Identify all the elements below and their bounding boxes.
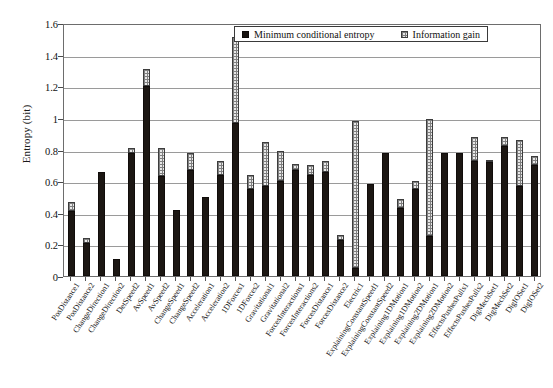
- bar-segment-min-conditional-entropy[interactable]: [397, 208, 404, 276]
- bar-group[interactable]: [337, 23, 344, 276]
- bar-group[interactable]: [292, 23, 299, 276]
- bar-group[interactable]: [426, 23, 433, 276]
- y-tick-label: 0.8: [2, 145, 58, 156]
- bar-group[interactable]: [382, 23, 389, 276]
- bar-segment-information-gain[interactable]: [352, 121, 359, 268]
- bar-segment-min-conditional-entropy[interactable]: [382, 153, 389, 276]
- gridline: [64, 183, 540, 184]
- bar-group[interactable]: [173, 23, 180, 276]
- legend-label-min-conditional-entropy: Minimum conditional entropy: [254, 29, 375, 40]
- bar-segment-information-gain[interactable]: [262, 142, 269, 186]
- bar-group[interactable]: [352, 23, 359, 276]
- bar-segment-min-conditional-entropy[interactable]: [232, 123, 239, 276]
- bar-group[interactable]: [322, 23, 329, 276]
- bar-group[interactable]: [501, 23, 508, 276]
- bar-segment-information-gain[interactable]: [277, 151, 284, 181]
- bar-segment-min-conditional-entropy[interactable]: [187, 170, 194, 276]
- bar-segment-min-conditional-entropy[interactable]: [68, 211, 75, 276]
- y-tick-label: 1.6: [2, 19, 58, 30]
- y-tick-label: 0.4: [2, 208, 58, 219]
- bar-group[interactable]: [277, 23, 284, 276]
- bar-group[interactable]: [531, 23, 538, 276]
- bar-segment-information-gain[interactable]: [501, 137, 508, 146]
- bar-group[interactable]: [217, 23, 224, 276]
- bar-group[interactable]: [262, 23, 269, 276]
- bar-segment-min-conditional-entropy[interactable]: [367, 184, 374, 276]
- bar-segment-information-gain[interactable]: [68, 202, 75, 211]
- bar-segment-information-gain[interactable]: [471, 137, 478, 161]
- bar-segment-information-gain[interactable]: [143, 69, 150, 86]
- bar-segment-min-conditional-entropy[interactable]: [471, 161, 478, 276]
- bar-segment-min-conditional-entropy[interactable]: [412, 189, 419, 276]
- bar-segment-information-gain[interactable]: [516, 140, 523, 186]
- bar-segment-min-conditional-entropy[interactable]: [292, 170, 299, 276]
- bar-group[interactable]: [187, 23, 194, 276]
- bar-group[interactable]: [128, 23, 135, 276]
- bar-group[interactable]: [68, 23, 75, 276]
- bar-segment-information-gain[interactable]: [337, 235, 344, 240]
- bar-segment-information-gain[interactable]: [158, 148, 165, 176]
- bar-segment-min-conditional-entropy[interactable]: [322, 172, 329, 276]
- bar-segment-min-conditional-entropy[interactable]: [173, 210, 180, 276]
- bar-segment-min-conditional-entropy[interactable]: [337, 240, 344, 276]
- bar-segment-information-gain[interactable]: [292, 164, 299, 170]
- bar-group[interactable]: [441, 23, 448, 276]
- entropy-bar-chart: Entropy (bit) 00.20.40.60.811.21.41.6 Po…: [0, 0, 553, 388]
- bar-group[interactable]: [367, 23, 374, 276]
- bar-segment-min-conditional-entropy[interactable]: [262, 186, 269, 276]
- bar-group[interactable]: [113, 23, 120, 276]
- gridline: [64, 57, 540, 58]
- bar-segment-information-gain[interactable]: [307, 165, 314, 174]
- bar-segment-min-conditional-entropy[interactable]: [98, 172, 105, 276]
- bar-group[interactable]: [516, 23, 523, 276]
- legend-entry-information-gain: Information gain: [401, 29, 480, 40]
- bar-group[interactable]: [202, 23, 209, 276]
- bar-segment-min-conditional-entropy[interactable]: [158, 176, 165, 276]
- bar-segment-min-conditional-entropy[interactable]: [426, 236, 433, 276]
- bar-segment-min-conditional-entropy[interactable]: [352, 268, 359, 276]
- bar-group[interactable]: [98, 23, 105, 276]
- bar-group[interactable]: [486, 23, 493, 276]
- bar-segment-information-gain[interactable]: [128, 148, 135, 153]
- bar-segment-information-gain[interactable]: [232, 37, 239, 122]
- bar-group[interactable]: [143, 23, 150, 276]
- bar-group[interactable]: [456, 23, 463, 276]
- bar-segment-min-conditional-entropy[interactable]: [456, 153, 463, 276]
- bar-segment-min-conditional-entropy[interactable]: [486, 162, 493, 276]
- bar-segment-min-conditional-entropy[interactable]: [516, 186, 523, 276]
- bar-segment-information-gain[interactable]: [322, 161, 329, 172]
- bar-segment-min-conditional-entropy[interactable]: [83, 243, 90, 276]
- y-tick-label: 0: [2, 272, 58, 283]
- bar-group[interactable]: [247, 23, 254, 276]
- bar-segment-min-conditional-entropy[interactable]: [143, 86, 150, 276]
- y-tick-label: 1.4: [2, 50, 58, 61]
- bar-group[interactable]: [412, 23, 419, 276]
- bar-segment-min-conditional-entropy[interactable]: [501, 146, 508, 276]
- bar-segment-information-gain[interactable]: [83, 238, 90, 243]
- x-axis-tick-labels: PosDistance1PosDistance2ChangeDirection1…: [63, 281, 541, 388]
- bar-segment-min-conditional-entropy[interactable]: [441, 153, 448, 276]
- bar-segment-information-gain[interactable]: [412, 181, 419, 189]
- bar-group[interactable]: [471, 23, 478, 276]
- bar-group[interactable]: [158, 23, 165, 276]
- bar-segment-information-gain[interactable]: [531, 156, 538, 165]
- bar-segment-min-conditional-entropy[interactable]: [531, 165, 538, 276]
- bar-group[interactable]: [83, 23, 90, 276]
- bar-segment-min-conditional-entropy[interactable]: [247, 189, 254, 276]
- bar-segment-min-conditional-entropy[interactable]: [202, 197, 209, 276]
- gridline: [64, 215, 540, 216]
- bar-group[interactable]: [307, 23, 314, 276]
- bar-segment-information-gain[interactable]: [187, 153, 194, 170]
- bar-segment-information-gain[interactable]: [217, 161, 224, 175]
- bar-segment-information-gain[interactable]: [426, 119, 433, 236]
- bar-segment-information-gain[interactable]: [486, 160, 493, 162]
- bar-segment-min-conditional-entropy[interactable]: [277, 181, 284, 276]
- bar-segment-min-conditional-entropy[interactable]: [113, 259, 120, 276]
- bar-segment-min-conditional-entropy[interactable]: [307, 175, 314, 276]
- bar-segment-information-gain[interactable]: [247, 175, 254, 189]
- bar-segment-information-gain[interactable]: [397, 199, 404, 208]
- bar-group[interactable]: [232, 23, 239, 276]
- bar-segment-min-conditional-entropy[interactable]: [217, 175, 224, 276]
- bar-group[interactable]: [397, 23, 404, 276]
- bar-segment-min-conditional-entropy[interactable]: [128, 153, 135, 276]
